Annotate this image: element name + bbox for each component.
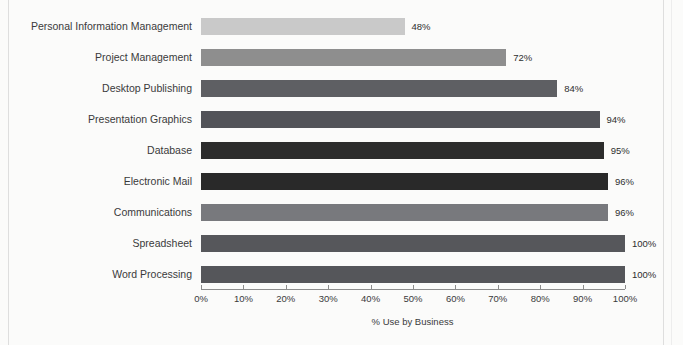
x-axis-tick-label: 80%	[531, 293, 550, 305]
bar-value-label: 94%	[607, 111, 626, 129]
x-axis-tick-label: 20%	[276, 293, 295, 305]
x-axis-tick	[625, 285, 626, 289]
bar	[201, 204, 608, 221]
category-label: Spreadsheet	[0, 234, 192, 253]
bar-row: Project Management72%	[0, 49, 683, 66]
x-axis-tick-label: 0%	[194, 293, 208, 305]
x-axis-tick-label: 60%	[446, 293, 465, 305]
bar-value-label: 72%	[513, 49, 532, 67]
x-axis-title-text: % Use by Business	[372, 316, 454, 327]
x-axis-tick	[201, 285, 202, 289]
x-axis-tick-label: 50%	[403, 293, 422, 305]
bar-value-label: 96%	[615, 173, 634, 191]
x-axis-tick-label: 40%	[361, 293, 380, 305]
bar	[201, 235, 625, 252]
category-label: Electronic Mail	[0, 172, 192, 191]
x-axis-tick-label: 90%	[573, 293, 592, 305]
bar-value-label: 95%	[611, 142, 630, 160]
x-axis-tick	[286, 285, 287, 289]
bar-row: Electronic Mail96%	[0, 173, 683, 190]
bar-value-label: 96%	[615, 204, 634, 222]
x-axis-tick	[413, 285, 414, 289]
bar-value-label: 100%	[632, 235, 656, 253]
category-label: Communications	[0, 203, 192, 222]
bar-value-label: 84%	[564, 80, 583, 98]
bar-row: Communications96%	[0, 204, 683, 221]
bar-row: Word Processing100%	[0, 266, 683, 283]
x-axis-tick	[540, 285, 541, 289]
bar	[201, 49, 506, 66]
bar-row: Database95%	[0, 142, 683, 159]
category-label: Personal Information Management	[0, 17, 192, 36]
bar-chart-figure: Personal Information Management48%Projec…	[0, 0, 683, 345]
bar-row: Personal Information Management48%	[0, 18, 683, 35]
x-axis-tick	[328, 285, 329, 289]
category-label: Desktop Publishing	[0, 79, 192, 98]
x-axis-tick-label: 10%	[234, 293, 253, 305]
x-axis-line	[201, 289, 625, 290]
x-axis-tick-label: 30%	[319, 293, 338, 305]
bar	[201, 80, 557, 97]
bar	[201, 18, 405, 35]
bar-row: Spreadsheet100%	[0, 235, 683, 252]
x-axis-tick-label: 70%	[488, 293, 507, 305]
bar-value-label: 48%	[412, 18, 431, 36]
category-label: Word Processing	[0, 265, 192, 284]
x-axis-tick-label: 100%	[613, 293, 637, 305]
bar-row: Presentation Graphics94%	[0, 111, 683, 128]
x-axis-tick	[243, 285, 244, 289]
bar	[201, 142, 604, 159]
category-label: Presentation Graphics	[0, 110, 192, 129]
bar	[201, 111, 600, 128]
x-axis-tick	[583, 285, 584, 289]
x-axis-tick	[455, 285, 456, 289]
category-label: Project Management	[0, 48, 192, 67]
bar	[201, 266, 625, 283]
bar	[201, 173, 608, 190]
bar-value-label: 100%	[632, 266, 656, 284]
x-axis-tick	[371, 285, 372, 289]
bar-row: Desktop Publishing84%	[0, 80, 683, 97]
x-axis-tick	[498, 285, 499, 289]
category-label: Database	[0, 141, 192, 160]
x-axis-title: % Use by Business	[0, 316, 683, 327]
